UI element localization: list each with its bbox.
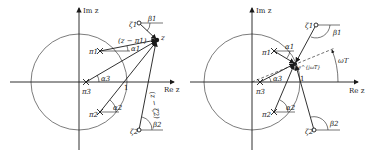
zero-zeta1-label: ζ1	[129, 21, 137, 29]
angle-alpha2: α2	[113, 104, 123, 112]
pole-pi1-label: π1	[261, 49, 271, 57]
angle-beta2: β2	[152, 121, 162, 129]
pole-pi3-label: π3	[81, 88, 92, 96]
angle-beta1: β1	[147, 15, 157, 23]
pole-pi2-label: π2	[88, 111, 99, 119]
zero-zeta1	[314, 23, 318, 27]
pole-pi2-label: π2	[261, 111, 272, 119]
angle-beta2: β2	[329, 120, 339, 128]
vector-zeta2	[296, 66, 314, 130]
real-axis-label: Re z	[164, 86, 180, 94]
omega-t-label: ωT	[338, 57, 350, 65]
zero-zeta1	[137, 21, 141, 25]
left-panel: Im z Re z 1 z (z − π1) (z − ζ2) π1 π2 π3…	[10, 7, 180, 150]
point-ejwt-label: e^{jωT}	[298, 64, 320, 71]
angle-alpha1: α1	[285, 43, 294, 51]
vector-zeta1	[296, 25, 316, 62]
right-panel: Im z Re z 1 e^{jωT} ωT π1 π2 π3 ζ1 ζ2 α1…	[190, 7, 365, 150]
zero-zeta2-label: ζ2	[130, 128, 139, 136]
unit-label: 1	[124, 84, 128, 92]
vector-pi1	[274, 51, 294, 63]
vector-label-pole: (z − π1)	[118, 37, 147, 45]
angle-alpha1: α1	[131, 45, 140, 53]
figure: Im z Re z 1 z (z − π1) (z − ζ2) π1 π2 π3…	[0, 0, 370, 158]
unit-label: 1	[300, 75, 304, 83]
angle-alpha3: α3	[101, 75, 111, 83]
zero-zeta1-label: ζ1	[305, 22, 313, 30]
vector-label-zero: (z − ζ2)	[148, 91, 161, 120]
angle-alpha2: α2	[286, 104, 296, 112]
real-axis-label: Re z	[349, 87, 365, 95]
imag-axis-label: Im z	[256, 7, 272, 15]
imag-axis-label: Im z	[83, 7, 99, 15]
angle-alpha3: α3	[273, 75, 283, 83]
pole-pi3-label: π3	[255, 88, 266, 96]
zero-zeta2-label: ζ2	[305, 128, 314, 136]
point-z-label: z	[160, 34, 165, 42]
pole-zero-diagrams: Im z Re z 1 z (z − π1) (z − ζ2) π1 π2 π3…	[0, 0, 370, 158]
angle-beta1: β1	[332, 29, 342, 37]
pole-pi1-label: π1	[88, 48, 98, 56]
